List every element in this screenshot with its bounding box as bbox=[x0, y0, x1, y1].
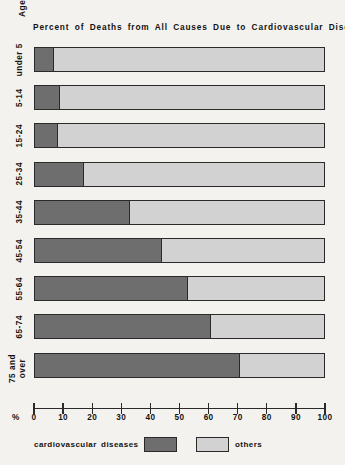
bar-row bbox=[34, 314, 325, 339]
plot-area: under 55-1415-2425-3435-4445-5455-6465-7… bbox=[0, 0, 345, 465]
bar-segment-others bbox=[54, 48, 324, 71]
bar-row bbox=[34, 123, 325, 148]
chart-legend: cardiovascular diseases others bbox=[34, 436, 314, 456]
legend-item-cardiovascular-diseases: cardiovascular diseases bbox=[34, 436, 177, 453]
bar-row bbox=[34, 238, 325, 263]
bar-segment-others bbox=[162, 239, 324, 262]
y-axis-tick-label: 45-54 bbox=[15, 230, 25, 270]
x-axis-tick-label: 10 bbox=[58, 413, 68, 422]
y-axis-tick-label: 25-34 bbox=[15, 154, 25, 194]
bar-segment-others bbox=[130, 201, 324, 224]
y-axis-tick-label: 55-64 bbox=[15, 268, 25, 308]
x-axis-tick-label: 0 bbox=[32, 413, 37, 422]
bar-row bbox=[34, 353, 325, 378]
bar-segment-cardiovascular-diseases bbox=[35, 163, 84, 186]
bar-segment-cardiovascular-diseases bbox=[35, 124, 58, 147]
bar-segment-cardiovascular-diseases bbox=[35, 48, 54, 71]
bar-segment-others bbox=[84, 163, 324, 186]
bar-row bbox=[34, 200, 325, 225]
bar-row bbox=[34, 47, 325, 72]
x-axis-tick-label: 80 bbox=[262, 413, 272, 422]
bar-segment-others bbox=[240, 354, 324, 377]
y-axis-tick-label: 75 andover bbox=[8, 352, 27, 386]
x-axis-tick-label: 30 bbox=[116, 413, 126, 422]
bar-row bbox=[34, 276, 325, 301]
bar-segment-cardiovascular-diseases bbox=[35, 315, 211, 338]
bar-segment-others bbox=[60, 86, 324, 109]
bar-segment-cardiovascular-diseases bbox=[35, 354, 240, 377]
bar-segment-others bbox=[188, 277, 324, 300]
legend-item-others: others bbox=[196, 436, 262, 453]
legend-swatch-others bbox=[196, 437, 229, 452]
x-axis-tick-label: 100 bbox=[318, 413, 333, 422]
bar-segment-cardiovascular-diseases bbox=[35, 201, 130, 224]
bar-segment-others bbox=[58, 124, 324, 147]
y-axis-tick-label: under 5 bbox=[15, 39, 25, 79]
x-axis-unit-label: % bbox=[12, 413, 19, 422]
x-axis-tick-label: 90 bbox=[291, 413, 301, 422]
legend-label-cardiovascular-diseases: cardiovascular diseases bbox=[34, 440, 138, 449]
legend-swatch-cardiovascular-diseases bbox=[144, 437, 177, 452]
chart-container: Percent of Deaths from All Causes Due to… bbox=[0, 0, 345, 465]
bar-segment-cardiovascular-diseases bbox=[35, 239, 162, 262]
x-axis-tick-label: 40 bbox=[145, 413, 155, 422]
bar-row bbox=[34, 162, 325, 187]
x-axis-tick-label: 20 bbox=[87, 413, 97, 422]
bar-segment-others bbox=[211, 315, 324, 338]
bar-segment-cardiovascular-diseases bbox=[35, 277, 188, 300]
y-axis-tick-label: 15-24 bbox=[15, 116, 25, 156]
x-axis-tick-label: 70 bbox=[233, 413, 243, 422]
y-axis-tick-label: 35-44 bbox=[15, 192, 25, 232]
legend-label-others: others bbox=[235, 440, 262, 449]
bar-segment-cardiovascular-diseases bbox=[35, 86, 60, 109]
x-axis-tick-label: 60 bbox=[204, 413, 214, 422]
y-axis-tick-label: 65-74 bbox=[15, 307, 25, 347]
bar-row bbox=[34, 85, 325, 110]
y-axis-tick-label: 5-14 bbox=[15, 77, 25, 117]
x-axis-tick-label: 50 bbox=[175, 413, 185, 422]
